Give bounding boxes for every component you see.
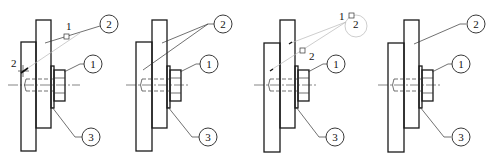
leader-1 bbox=[308, 64, 327, 72]
leader-3 bbox=[296, 107, 326, 137]
nut bbox=[298, 70, 309, 101]
nut bbox=[54, 70, 65, 101]
svg-text:1: 1 bbox=[458, 58, 464, 70]
leader-2 bbox=[45, 26, 100, 43]
svg-text:3: 3 bbox=[205, 131, 211, 143]
front-plate bbox=[280, 20, 295, 128]
svg-text:3: 3 bbox=[332, 131, 338, 143]
svg-text:2: 2 bbox=[220, 18, 226, 30]
panel-3: 1 2 2 1 3 bbox=[254, 10, 367, 152]
front-plate bbox=[152, 20, 167, 128]
panel-1: 1 2 2 1 3 bbox=[8, 15, 118, 151]
nut bbox=[170, 70, 181, 101]
back-plate bbox=[21, 42, 36, 151]
front-plate bbox=[36, 20, 51, 128]
front-plate bbox=[404, 20, 419, 128]
annotation-1: 1 bbox=[66, 20, 72, 32]
leader-1 bbox=[432, 64, 452, 72]
leader-2a bbox=[162, 24, 214, 43]
annotation-2: 2 bbox=[11, 57, 17, 69]
annotation-1: 1 bbox=[339, 10, 345, 22]
svg-text:2: 2 bbox=[473, 18, 479, 30]
leader-2 bbox=[414, 24, 466, 44]
diagram-canvas: 1 2 2 1 3 2 1 3 bbox=[0, 0, 496, 166]
annotation-2-lower: 2 bbox=[309, 50, 315, 62]
svg-text:1: 1 bbox=[206, 58, 212, 70]
annotation-2-circle: 2 bbox=[353, 18, 359, 30]
back-plate bbox=[136, 42, 152, 151]
svg-text:1: 1 bbox=[90, 58, 96, 70]
leader-2b bbox=[143, 24, 208, 70]
leader-3 bbox=[420, 107, 451, 137]
svg-text:3: 3 bbox=[458, 131, 464, 143]
back-plate bbox=[264, 43, 280, 152]
svg-text:3: 3 bbox=[88, 131, 94, 143]
leader-1 bbox=[180, 64, 200, 72]
leader-3 bbox=[168, 107, 199, 137]
panel-2: 2 1 3 bbox=[126, 15, 232, 151]
leader-3 bbox=[52, 107, 82, 137]
panel-4: 2 1 3 bbox=[378, 15, 485, 152]
back-plate bbox=[388, 43, 404, 152]
nut bbox=[422, 70, 433, 101]
svg-text:1: 1 bbox=[333, 58, 339, 70]
svg-text:2: 2 bbox=[106, 18, 112, 30]
square-marker bbox=[64, 34, 69, 39]
leader-1 bbox=[64, 64, 84, 72]
square-marker-lower bbox=[300, 48, 305, 53]
